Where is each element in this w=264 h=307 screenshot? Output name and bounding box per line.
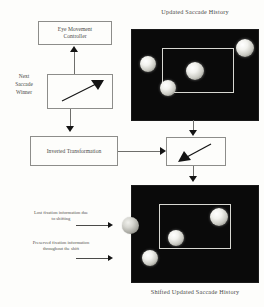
inverted-transformation-box[interactable]: Inverted Transformation: [30, 136, 118, 166]
shifted-saccade-history-caption: Shifted Updated Saccade History: [128, 288, 262, 295]
inverted-transformation-label: Inverted Transformation: [47, 148, 102, 155]
connector-winner-to-controller: [74, 52, 75, 74]
connector-transformation-to-shift-vector: [118, 151, 161, 152]
note-line-lost-fixation: [76, 225, 109, 226]
blob-center-left-inside: [168, 230, 184, 246]
arrow-up-to-controller: [70, 46, 78, 52]
note-arrow-preserved-fixation: [108, 255, 113, 261]
shift-direction-arrow-down-left: [167, 138, 227, 167]
blob-center-inside: [186, 62, 204, 80]
next-saccade-winner-label: Next Saccade Winner: [4, 72, 44, 96]
diagram-canvas: Updated Saccade History Eye Movement Con…: [0, 0, 264, 307]
saccade-direction-arrow-up-right: [48, 75, 114, 110]
blob-shifted-out-of-view: [122, 217, 139, 234]
shifted-saccade-history-panel: [132, 186, 258, 282]
updated-saccade-history-title: Updated Saccade History: [128, 8, 262, 15]
blob-top-left-outside: [140, 56, 156, 72]
shift-vector-box[interactable]: [166, 137, 226, 166]
blob-upper-right-inside: [210, 208, 228, 226]
arrow-down-to-bottom-panel: [189, 176, 197, 182]
arrow-down-to-transformation: [66, 126, 74, 132]
eye-movement-controller-box[interactable]: Eye Movement Controller: [38, 21, 112, 45]
blob-lower-left-outside: [142, 250, 158, 266]
lost-fixation-note: Lost fixation information due to shiftin…: [12, 210, 110, 222]
arrow-down-from-top-panel: [189, 130, 197, 136]
eye-movement-controller-label: Eye Movement Controller: [58, 26, 92, 40]
updated-saccade-history-panel: [132, 30, 258, 120]
note-line-preserved-fixation: [76, 258, 109, 259]
next-saccade-winner-box[interactable]: [47, 74, 113, 109]
blob-lower-left-inside: [160, 80, 176, 96]
preserved-fixation-note: Preserved fixation information throughou…: [12, 240, 110, 252]
blob-top-right-outside: [236, 39, 254, 57]
note-arrow-lost-fixation: [108, 222, 113, 228]
